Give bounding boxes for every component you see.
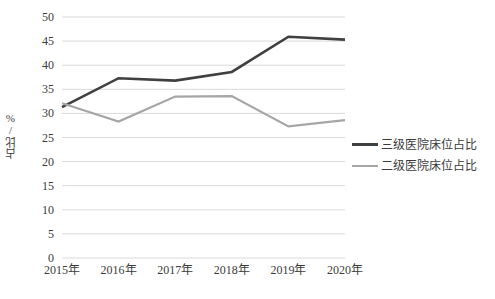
y-axis-tick-label: 35 <box>42 83 54 95</box>
legend-label: 三级医院床位占比 <box>381 139 477 151</box>
legend-label: 二级医院床位占比 <box>381 160 477 172</box>
y-axis-tick-labels: 05101520253035404550 <box>20 0 58 299</box>
x-axis-tick-label: 2019年 <box>270 264 306 276</box>
y-axis-tick-label: 15 <box>42 180 54 192</box>
line-chart: 占比/% 05101520253035404550 2015年2016年2017… <box>0 0 495 299</box>
x-axis-tick-label: 2020年 <box>327 264 363 276</box>
y-axis-tick-label: 20 <box>42 156 54 168</box>
plot-area <box>62 17 345 258</box>
y-axis-tick-label: 40 <box>42 59 54 71</box>
y-axis-tick-label: 50 <box>42 11 54 23</box>
y-axis-tick-label: 10 <box>42 204 54 216</box>
gridlines <box>62 17 345 258</box>
x-axis-tick-label: 2017年 <box>157 264 193 276</box>
y-axis-title: 占比/% <box>2 96 20 176</box>
legend-item[interactable]: 二级医院床位占比 <box>352 155 492 176</box>
x-axis-tick-label: 2015年 <box>44 264 80 276</box>
legend-line-swatch <box>352 143 378 146</box>
legend-item[interactable]: 三级医院床位占比 <box>352 134 492 155</box>
y-axis-tick-label: 25 <box>42 132 54 144</box>
series-line <box>62 96 345 126</box>
plot-svg <box>62 17 345 258</box>
y-axis-tick-label: 5 <box>48 228 54 240</box>
legend-line-swatch <box>352 165 378 167</box>
chart-legend: 三级医院床位占比二级医院床位占比 <box>352 134 492 176</box>
x-axis-tick-label: 2016年 <box>101 264 137 276</box>
y-axis-tick-label: 30 <box>42 107 54 119</box>
y-axis-tick-label: 45 <box>42 35 54 47</box>
x-axis-tick-labels: 2015年2016年2017年2018年2019年2020年 <box>62 262 345 284</box>
x-axis-tick-label: 2018年 <box>214 264 250 276</box>
